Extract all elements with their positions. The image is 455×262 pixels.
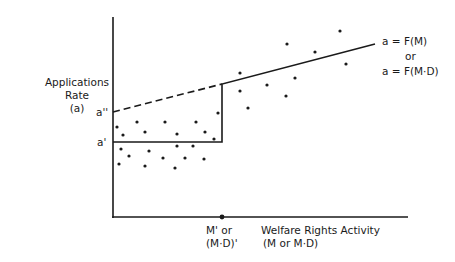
- data-point: [115, 125, 118, 128]
- tick-a-prime: a': [97, 136, 106, 149]
- x-tick-label: M' or (M·D)': [206, 224, 238, 250]
- y-axis-title-line2: Rate: [42, 89, 112, 102]
- data-point: [246, 106, 249, 109]
- data-point: [119, 147, 122, 150]
- x-axis-title-line2: (M or M·D): [261, 237, 380, 250]
- equation-line1: a = F(M): [382, 35, 427, 48]
- data-point: [344, 62, 347, 65]
- tick-a-double-prime: a'': [96, 106, 108, 119]
- data-point: [161, 156, 164, 159]
- x-axis-title-line1: Welfare Rights Activity: [261, 224, 380, 237]
- equation-or: or: [405, 50, 416, 63]
- data-point: [191, 144, 194, 147]
- data-point: [203, 130, 206, 133]
- data-point: [265, 83, 268, 86]
- data-point: [212, 137, 215, 140]
- data-point: [143, 130, 146, 133]
- data-point: [173, 166, 176, 169]
- x-tick-line2: (M·D)': [206, 237, 238, 250]
- x-axis-title: Welfare Rights Activity (M or M·D): [261, 224, 380, 250]
- data-point: [143, 164, 146, 167]
- data-point: [117, 162, 120, 165]
- scatter-points: [115, 29, 347, 169]
- m-prime-marker: [220, 215, 225, 220]
- y-axis-title-line1: Applications: [42, 76, 112, 89]
- data-point: [135, 120, 138, 123]
- data-point: [313, 50, 316, 53]
- dashed-counterfactual-line: [113, 84, 222, 112]
- data-point: [127, 154, 130, 157]
- data-point: [293, 76, 296, 79]
- data-point: [121, 133, 124, 136]
- data-point: [238, 89, 241, 92]
- step-function-line: [113, 44, 375, 142]
- data-point: [194, 120, 197, 123]
- data-point: [338, 29, 341, 32]
- data-point: [163, 120, 166, 123]
- data-point: [175, 132, 178, 135]
- data-point: [183, 156, 186, 159]
- data-point: [147, 149, 150, 152]
- data-point: [285, 42, 288, 45]
- data-point: [284, 94, 287, 97]
- data-point: [202, 157, 205, 160]
- data-point: [216, 111, 219, 114]
- data-point: [238, 71, 241, 74]
- x-tick-line1: M' or: [206, 224, 238, 237]
- data-point: [175, 144, 178, 147]
- equation-line2: a = F(M·D): [382, 65, 439, 78]
